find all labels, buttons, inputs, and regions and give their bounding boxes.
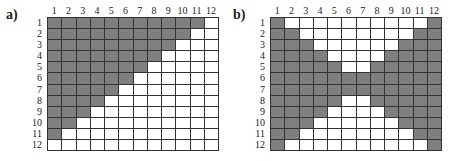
filled-cell [119,73,133,84]
empty-cell [176,85,190,96]
empty-cell [357,51,371,62]
empty-cell [371,118,385,129]
empty-cell [205,62,219,73]
filled-cell [399,107,413,118]
filled-cell [285,85,299,96]
filled-cell [62,18,76,29]
empty-cell [205,73,219,84]
filled-cell [105,73,119,84]
column-label: 3 [76,5,90,17]
filled-cell [285,96,299,107]
empty-cell [399,129,413,140]
filled-cell [148,18,162,29]
empty-cell [328,29,342,40]
empty-cell [191,40,205,51]
column-label: 4 [90,5,104,17]
filled-cell [271,73,285,84]
row-label: 12 [251,139,265,150]
filled-cell [428,140,442,151]
empty-cell [176,107,190,118]
column-label: 3 [299,5,313,17]
filled-cell [428,29,442,40]
row-label: 10 [28,117,42,128]
filled-cell [314,51,328,62]
empty-cell [328,40,342,51]
column-label: 7 [133,5,147,17]
filled-cell [119,62,133,73]
filled-cell [371,62,385,73]
empty-cell [328,18,342,29]
empty-cell [399,29,413,40]
panel-b-column-labels: 123456789101112 [270,5,441,17]
empty-cell [205,107,219,118]
filled-cell [300,85,314,96]
empty-cell [342,51,356,62]
row-label: 11 [28,128,42,139]
empty-cell [399,140,413,151]
empty-cell [357,96,371,107]
empty-cell [191,62,205,73]
empty-cell [357,129,371,140]
empty-cell [134,85,148,96]
filled-cell [285,107,299,118]
filled-cell [357,85,371,96]
empty-cell [205,96,219,107]
filled-cell [119,40,133,51]
row-label: 9 [28,106,42,117]
empty-cell [162,140,176,151]
empty-cell [205,40,219,51]
row-label: 6 [251,72,265,83]
panel-a-column-labels: 123456789101112 [47,5,218,17]
empty-cell [371,140,385,151]
empty-cell [357,40,371,51]
filled-cell [48,73,62,84]
filled-cell [428,96,442,107]
empty-cell [77,118,91,129]
filled-cell [191,18,205,29]
empty-cell [119,107,133,118]
filled-cell [385,62,399,73]
empty-cell [77,140,91,151]
empty-cell [205,118,219,129]
empty-cell [205,85,219,96]
filled-cell [77,18,91,29]
filled-cell [77,107,91,118]
empty-cell [119,140,133,151]
filled-cell [271,29,285,40]
filled-cell [77,73,91,84]
empty-cell [357,29,371,40]
empty-cell [342,107,356,118]
row-label: 7 [28,84,42,95]
filled-cell [62,40,76,51]
filled-cell [428,40,442,51]
filled-cell [314,107,328,118]
empty-cell [371,18,385,29]
panel-b-row-labels: 123456789101112 [251,17,265,150]
empty-cell [148,107,162,118]
empty-cell [314,129,328,140]
row-label: 10 [251,117,265,128]
empty-cell [385,29,399,40]
column-label: 9 [161,5,175,17]
filled-cell [77,40,91,51]
filled-cell [91,73,105,84]
empty-cell [148,85,162,96]
filled-cell [328,73,342,84]
filled-cell [428,73,442,84]
filled-cell [428,118,442,129]
filled-cell [148,51,162,62]
filled-cell [399,51,413,62]
empty-cell [205,140,219,151]
filled-cell [134,62,148,73]
filled-cell [428,129,442,140]
panel-a-row-labels: 123456789101112 [28,17,42,150]
column-label: 1 [47,5,61,17]
filled-cell [48,29,62,40]
filled-cell [77,51,91,62]
filled-cell [428,85,442,96]
empty-cell [91,107,105,118]
empty-cell [300,129,314,140]
filled-cell [428,62,442,73]
filled-cell [62,51,76,62]
empty-cell [285,140,299,151]
